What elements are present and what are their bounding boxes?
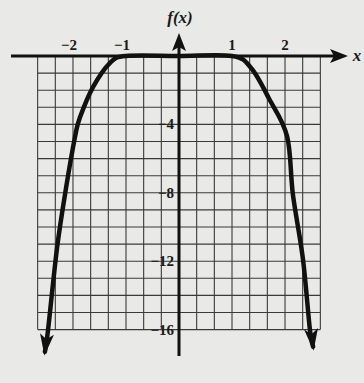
- x-tick-label: 2: [281, 37, 289, 53]
- x-tick-label: 1: [228, 37, 236, 53]
- x-tick-label: −1: [114, 37, 130, 53]
- x-axis-label: x: [352, 46, 362, 65]
- y-tick-label: −4: [158, 116, 175, 132]
- function-graph: f(x) x −2−112 −4−8−12−16: [0, 0, 364, 383]
- y-axis: [172, 33, 186, 356]
- y-axis-label: f(x): [167, 8, 192, 27]
- y-tick-label: −16: [150, 322, 174, 338]
- y-tick-label: −8: [158, 185, 174, 201]
- y-tick-label: −12: [150, 253, 174, 269]
- x-tick-label: −2: [61, 37, 77, 53]
